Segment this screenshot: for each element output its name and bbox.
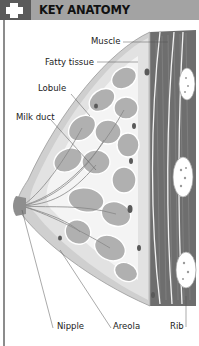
- label-lobule: Lobule: [38, 83, 66, 93]
- label-muscle: Muscle: [91, 36, 120, 46]
- plus-cross-icon: [0, 0, 31, 20]
- label-areola: Areola: [113, 321, 140, 331]
- label-rib: Rib: [170, 321, 184, 331]
- section-title: KEY ANATOMY: [39, 3, 130, 17]
- label-fatty-tissue: Fatty tissue: [45, 57, 94, 67]
- anatomy-diagram: Muscle Fatty tissue Lobule Milk duct Nip…: [0, 20, 199, 346]
- section-header: KEY ANATOMY: [0, 0, 199, 20]
- breast-cross-section-illustration: [0, 20, 199, 346]
- label-milk-duct: Milk duct: [16, 112, 54, 122]
- label-nipple: Nipple: [57, 321, 84, 331]
